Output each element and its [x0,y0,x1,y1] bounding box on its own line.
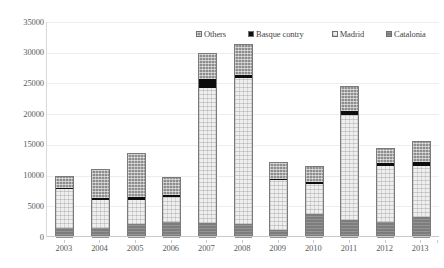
legend-label: Catalonia [394,30,426,39]
bar-segment-others[interactable] [270,163,287,179]
x-axis: 2003200420052006200720082009201020112012… [46,243,438,261]
x-axis-tick-mark [278,240,279,243]
y-axis-tick-label: 25000 [4,79,44,88]
bar-segment-madrid[interactable] [128,200,145,224]
x-axis-tick-label: 2011 [329,243,369,253]
y-axis-tick-label: 0 [4,233,44,242]
y-axis-tick-label: 10000 [4,171,44,180]
bar-segment-catalonia[interactable] [413,217,430,238]
x-axis-tick-label: 2010 [293,243,333,253]
bar-segment-madrid[interactable] [92,200,109,228]
legend-item[interactable]: Madrid [332,30,364,39]
legend-label: Madrid [340,30,364,39]
x-axis-tick-label: 2006 [151,243,191,253]
bar-segment-madrid[interactable] [270,180,287,230]
stacked-bar-chart: 05000100001500020000250003000035000 2003… [0,0,444,268]
bar-stack[interactable] [198,53,217,237]
bar-segment-madrid[interactable] [56,189,73,227]
y-axis: 05000100001500020000250003000035000 [0,0,44,268]
bar-segment-others[interactable] [92,170,109,198]
bar-stack[interactable] [55,176,74,237]
cross-hatch-swatch [196,31,202,37]
bar-segment-madrid[interactable] [377,166,394,223]
bar-stack[interactable] [305,166,324,237]
x-axis-tick-mark [99,240,100,243]
bar-stack[interactable] [376,148,395,237]
x-axis-tick-mark [64,240,65,243]
bar-segment-madrid[interactable] [199,88,216,223]
y-axis-tick-label: 20000 [4,110,44,119]
plot-area [46,22,439,237]
bar-segment-others[interactable] [341,87,358,111]
chart-legend: OthersBasque contryMadridCatalonia [196,28,426,40]
black-swatch [248,31,254,37]
x-axis-tick-mark [171,240,172,243]
bar-stack[interactable] [162,177,181,237]
x-axis-tick-label: 2004 [79,243,119,253]
x-axis-tick-mark [385,240,386,243]
legend-label: Basque contry [256,30,304,39]
bar-segment-catalonia[interactable] [306,214,323,238]
x-axis-tick-mark [313,240,314,243]
legend-item[interactable]: Catalonia [386,30,426,39]
x-axis-tick-label: 2012 [365,243,405,253]
bar-stack[interactable] [127,153,146,237]
bar-segment-others[interactable] [377,149,394,163]
solid-gray-swatch [386,31,392,37]
bar-segment-madrid[interactable] [163,197,180,222]
bar-series-group [47,22,439,237]
bar-segment-others[interactable] [56,177,73,189]
legend-item[interactable]: Others [196,30,226,39]
bar-stack[interactable] [340,86,359,237]
bar-segment-madrid[interactable] [235,78,252,224]
y-axis-tick-label: 15000 [4,140,44,149]
x-axis-tick-label: 2007 [186,243,226,253]
bar-segment-others[interactable] [235,45,252,75]
legend-item[interactable]: Basque contry [248,30,304,39]
y-axis-tick-label: 5000 [4,202,44,211]
bar-segment-madrid[interactable] [341,115,358,221]
bar-segment-basque-contry[interactable] [199,79,216,88]
light-dotted-swatch [332,31,338,37]
x-axis-tick-label: 2009 [258,243,298,253]
bar-segment-others[interactable] [306,167,323,182]
bar-stack[interactable] [91,169,110,237]
x-axis-tick-label: 2005 [115,243,155,253]
bar-segment-others[interactable] [413,142,430,162]
legend-label: Others [204,30,226,39]
x-axis-tick-mark [242,240,243,243]
bar-segment-others[interactable] [128,154,145,198]
x-axis-tick-mark [420,240,421,243]
x-axis-tick-label: 2008 [222,243,262,253]
bar-segment-madrid[interactable] [413,166,430,218]
x-axis-tick-mark [135,240,136,243]
x-axis-tick-mark [349,240,350,243]
bar-stack[interactable] [269,162,288,237]
x-axis-tick-label: 2003 [44,243,84,253]
bar-stack[interactable] [234,44,253,237]
bar-segment-madrid[interactable] [306,184,323,214]
bar-segment-others[interactable] [199,54,216,79]
y-axis-tick-label: 30000 [4,48,44,57]
x-axis-tick-mark [437,240,438,243]
bar-segment-others[interactable] [163,178,180,195]
x-axis-tick-mark [206,240,207,243]
bar-stack[interactable] [412,141,431,237]
x-axis-baseline [47,236,439,237]
x-axis-tick-label: 2013 [400,243,440,253]
y-axis-tick-label: 35000 [4,18,44,27]
